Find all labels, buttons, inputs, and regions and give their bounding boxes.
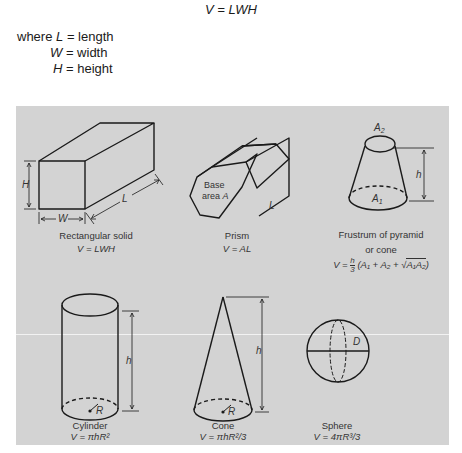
label-cylinder-h: h (126, 355, 132, 366)
label-frustum-h: h (416, 169, 422, 180)
shape-name: Frustrum of pyramid (316, 227, 446, 242)
cone-icon (194, 297, 269, 421)
label-L: L (122, 193, 128, 204)
caption-prism: Prism V = AL (192, 229, 282, 255)
definition-width: W = width (17, 45, 114, 61)
equals: = (62, 61, 77, 76)
shape-formula: V = LWH (26, 242, 166, 255)
equals: = (63, 29, 78, 44)
label-area: area A (202, 191, 229, 201)
equals: = (62, 45, 77, 60)
shapes-panel: H W L Base area A L A2 A1 h h R h R D Re… (16, 106, 449, 445)
label-prism-L: L (269, 200, 275, 211)
symbol-H: H (53, 61, 62, 76)
formula-root: A₁A₂ (406, 258, 425, 270)
shape-formula: V = πhR²/3 (178, 431, 268, 442)
label-W: W (58, 213, 69, 224)
cone-center-dot (221, 410, 224, 413)
formula-lhs: V = (333, 259, 350, 270)
label-cone-h: h (256, 345, 262, 356)
shape-formula: V = πhR² (50, 431, 130, 442)
label-cylinder-R: R (96, 405, 103, 416)
caption-cylinder: Cylinder V = πhR² (50, 420, 130, 442)
definition-length: where L = length (17, 29, 114, 45)
formula-close: ) (426, 259, 429, 270)
label-A1: A1 (371, 193, 383, 205)
shape-formula: V = AL (192, 242, 282, 255)
variable-definitions: where L = length W = width H = height (17, 29, 114, 77)
caption-frustum: Frustrum of pyramid or cone V = h3 (A₁ +… (316, 227, 446, 274)
shape-name: Cylinder (50, 420, 130, 431)
sphere-icon (307, 320, 369, 382)
meaning-length: length (78, 29, 113, 44)
shape-name: Rectangular solid (26, 229, 166, 242)
shape-name: Prism (192, 229, 282, 242)
fraction-den: 3 (350, 266, 354, 274)
meaning-width: width (77, 45, 107, 60)
label-cone-R: R (228, 406, 235, 417)
shape-name: Cone (178, 420, 268, 431)
cylinder-center-dot (88, 409, 91, 412)
main-formula: V = LWH (0, 2, 462, 17)
shape-name: Sphere (292, 420, 382, 431)
definition-height: H = height (17, 61, 114, 77)
shapes-drawing: H W L Base area A L A2 A1 h h R h R D (16, 106, 449, 445)
caption-cone: Cone V = πhR²/3 (178, 420, 268, 442)
caption-sphere: Sphere V = 4πR³/3 (292, 420, 382, 442)
rectangular-solid-icon (24, 123, 163, 224)
where-word: where (17, 29, 56, 44)
caption-rectangular-solid: Rectangular solid V = LWH (26, 229, 166, 255)
label-sphere-D: D (353, 336, 360, 347)
shape-formula: V = 4πR³/3 (292, 431, 382, 442)
formula-body: (A₁ + A₂ + (357, 259, 401, 270)
meaning-height: height (77, 61, 112, 76)
symbol-W: W (50, 45, 62, 60)
label-base: Base (204, 180, 225, 190)
label-H: H (22, 179, 30, 190)
shape-formula: V = h3 (A₁ + A₂ + √A₁A₂) (316, 257, 446, 274)
fraction: h3 (350, 257, 354, 274)
label-A2: A2 (373, 122, 385, 134)
shape-name-cont: or cone (316, 242, 446, 257)
